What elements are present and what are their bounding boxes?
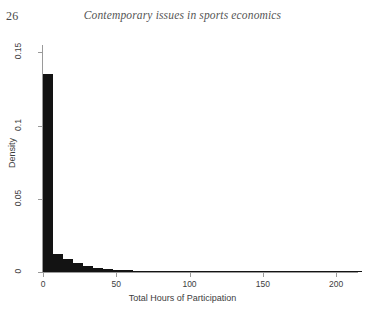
- histogram-bar: [153, 271, 163, 272]
- histogram-bar: [123, 270, 133, 272]
- x-tick: [116, 273, 117, 277]
- x-tick-label: 50: [112, 279, 121, 289]
- histogram-bar: [73, 263, 83, 272]
- histogram-bar: [292, 271, 302, 272]
- histogram-bar: [242, 271, 252, 272]
- x-tick: [190, 273, 191, 277]
- histogram-bar: [342, 271, 352, 272]
- histogram-bar: [302, 271, 312, 272]
- histogram-bar: [163, 271, 173, 272]
- page-header: 26 Contemporary issues in sports economi…: [0, 9, 365, 25]
- histogram-bar: [212, 271, 222, 272]
- histogram-bar: [312, 271, 322, 272]
- histogram-bar: [63, 259, 73, 272]
- histogram-bar: [252, 271, 262, 272]
- x-tick: [43, 273, 44, 277]
- histogram-bar: [173, 271, 183, 272]
- histogram-bar: [352, 271, 362, 272]
- histogram-bar: [332, 271, 342, 272]
- histogram-bar: [93, 268, 103, 272]
- x-axis-line: [42, 272, 358, 273]
- histogram-bar: [53, 254, 63, 272]
- histogram-bar: [192, 271, 202, 272]
- histogram-bar: [282, 271, 292, 272]
- x-axis-title: Total Hours of Participation: [0, 293, 365, 303]
- histogram-bar: [262, 271, 272, 272]
- y-axis-title: Density: [7, 93, 17, 213]
- histogram-bar: [143, 271, 153, 272]
- x-tick-label: 200: [329, 279, 343, 289]
- histogram-bar: [232, 271, 242, 272]
- histogram-bars: [43, 45, 358, 272]
- x-tick-label: 0: [41, 279, 46, 289]
- histogram-bar: [202, 271, 212, 272]
- histogram-bar: [182, 271, 192, 272]
- histogram-bar: [83, 266, 93, 272]
- histogram-bar: [322, 271, 332, 272]
- x-tick-label: 150: [256, 279, 270, 289]
- x-tick-label: 100: [182, 279, 196, 289]
- histogram-bar: [222, 271, 232, 272]
- x-tick: [263, 273, 264, 277]
- histogram-bar: [133, 271, 143, 272]
- histogram-figure: 00.050.10.15 050100150200 Density Total …: [0, 30, 365, 309]
- y-tick-label: 0.15: [13, 33, 23, 69]
- histogram-bar: [103, 269, 113, 272]
- y-tick-label: 0: [13, 253, 23, 289]
- histogram-bar: [43, 74, 53, 272]
- histogram-bar: [113, 270, 123, 272]
- histogram-bar: [272, 271, 282, 272]
- running-title: Contemporary issues in sports economics: [0, 9, 365, 21]
- x-tick: [336, 273, 337, 277]
